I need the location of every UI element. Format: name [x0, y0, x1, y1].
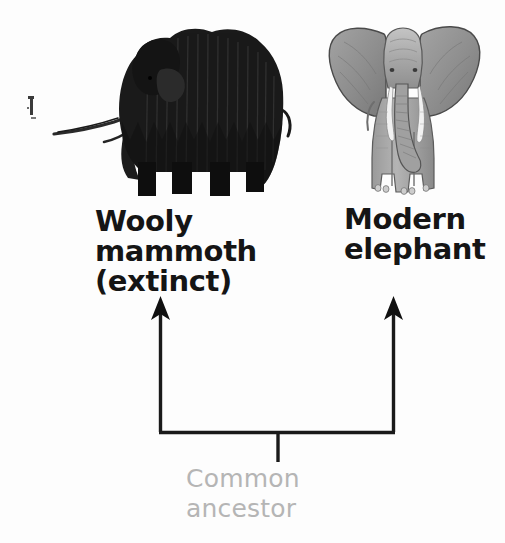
scan-artifact-icon: [26, 95, 40, 121]
common-ancestor-label: Common ancestor: [186, 464, 300, 523]
diagram-canvas: Wooly mammoth (extinct) Modern elephant …: [0, 0, 505, 543]
mammoth-label: Wooly mammoth (extinct): [95, 207, 257, 297]
elephant-label: Modern elephant: [344, 205, 486, 265]
elephant-illustration: [322, 12, 484, 208]
mammoth-illustration: [52, 22, 302, 212]
lineage-bracket: [140, 292, 420, 477]
